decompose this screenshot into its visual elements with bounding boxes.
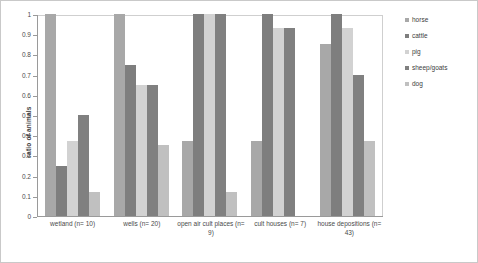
y-tick-mark (33, 156, 37, 157)
bar (114, 14, 125, 216)
legend-item: pig (405, 49, 447, 56)
bar (204, 14, 215, 216)
x-axis-label: open air cult places (n= 9) (177, 219, 245, 238)
bar (284, 28, 295, 216)
bar (331, 14, 342, 216)
bar (45, 14, 56, 216)
bar-groups-container (38, 15, 382, 216)
legend-label: cattle (412, 33, 428, 40)
bar (193, 14, 204, 216)
bar (215, 14, 226, 216)
bar (78, 115, 89, 216)
y-tick-mark (33, 76, 37, 77)
x-axis-label: cult houses (n= 7) (246, 219, 314, 228)
bar-group (114, 15, 169, 216)
bar (273, 28, 284, 216)
chart-figure: ratio of animals 00.10.20.30.40.50.60.70… (0, 0, 478, 263)
plot-right-border (382, 15, 383, 217)
y-tick-mark (33, 15, 37, 16)
bar (56, 166, 67, 217)
y-tick-mark (33, 116, 37, 117)
y-tick-label: 0.5 (22, 113, 31, 120)
y-tick-label: 0.6 (22, 93, 31, 100)
legend-swatch-icon (405, 34, 409, 38)
y-tick-mark (33, 35, 37, 36)
bar-group (251, 15, 306, 216)
legend-label: horse (412, 17, 428, 24)
bar (262, 14, 273, 216)
legend-item: cattle (405, 33, 447, 40)
bar-group (182, 15, 237, 216)
bar (353, 75, 364, 216)
bar (136, 85, 147, 216)
legend-swatch-icon (405, 50, 409, 54)
bar (251, 141, 262, 216)
y-tick-label: 0.8 (22, 52, 31, 59)
bar (182, 141, 193, 216)
legend-label: sheep/goats (412, 65, 447, 72)
bar (320, 44, 331, 216)
x-axis-label: wetland (n= 10) (39, 219, 107, 228)
plot-area: 00.10.20.30.40.50.60.70.80.91 (37, 15, 383, 217)
y-tick-label: 0.3 (22, 153, 31, 160)
y-tick-mark (33, 177, 37, 178)
y-tick-mark (33, 55, 37, 56)
bar (158, 145, 169, 216)
y-tick-label: 1 (27, 12, 31, 19)
legend-item: dog (405, 81, 447, 88)
legend-label: dog (412, 81, 423, 88)
y-tick-mark (33, 96, 37, 97)
bar (125, 65, 136, 217)
legend-item: sheep/goats (405, 65, 447, 72)
bar (226, 192, 237, 216)
x-axis-line (37, 216, 383, 217)
y-tick-label: 0.7 (22, 72, 31, 79)
legend-swatch-icon (405, 66, 409, 70)
x-axis-labels: wetland (n= 10)wells (n= 20)open air cul… (38, 219, 384, 238)
bar (147, 85, 158, 216)
legend-swatch-icon (405, 82, 409, 86)
y-tick-label: 0.4 (22, 133, 31, 140)
legend-item: horse (405, 17, 447, 24)
y-tick-mark (33, 197, 37, 198)
bar-group (45, 15, 100, 216)
y-tick-label: 0 (27, 214, 31, 221)
bar-group (320, 15, 375, 216)
bar (67, 141, 78, 216)
y-tick-label: 0.9 (22, 32, 31, 39)
x-axis-label: house depositions (n= 43) (315, 219, 383, 238)
y-tick-label: 0.1 (22, 194, 31, 201)
bar (89, 192, 100, 216)
x-axis-label: wells (n= 20) (108, 219, 176, 228)
legend-swatch-icon (405, 18, 409, 22)
bar (364, 141, 375, 216)
y-tick-label: 0.2 (22, 173, 31, 180)
chart-legend: horsecattlepigsheep/goatsdog (405, 17, 447, 88)
bar (342, 28, 353, 216)
legend-label: pig (412, 49, 421, 56)
y-tick-mark (33, 136, 37, 137)
y-tick-mark (33, 217, 37, 218)
